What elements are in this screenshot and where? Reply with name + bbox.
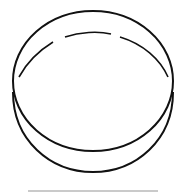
- petri-dish-icon: [0, 0, 184, 195]
- lid-inner-arc-left: [19, 42, 53, 77]
- lid-inner-arc-top: [65, 32, 111, 37]
